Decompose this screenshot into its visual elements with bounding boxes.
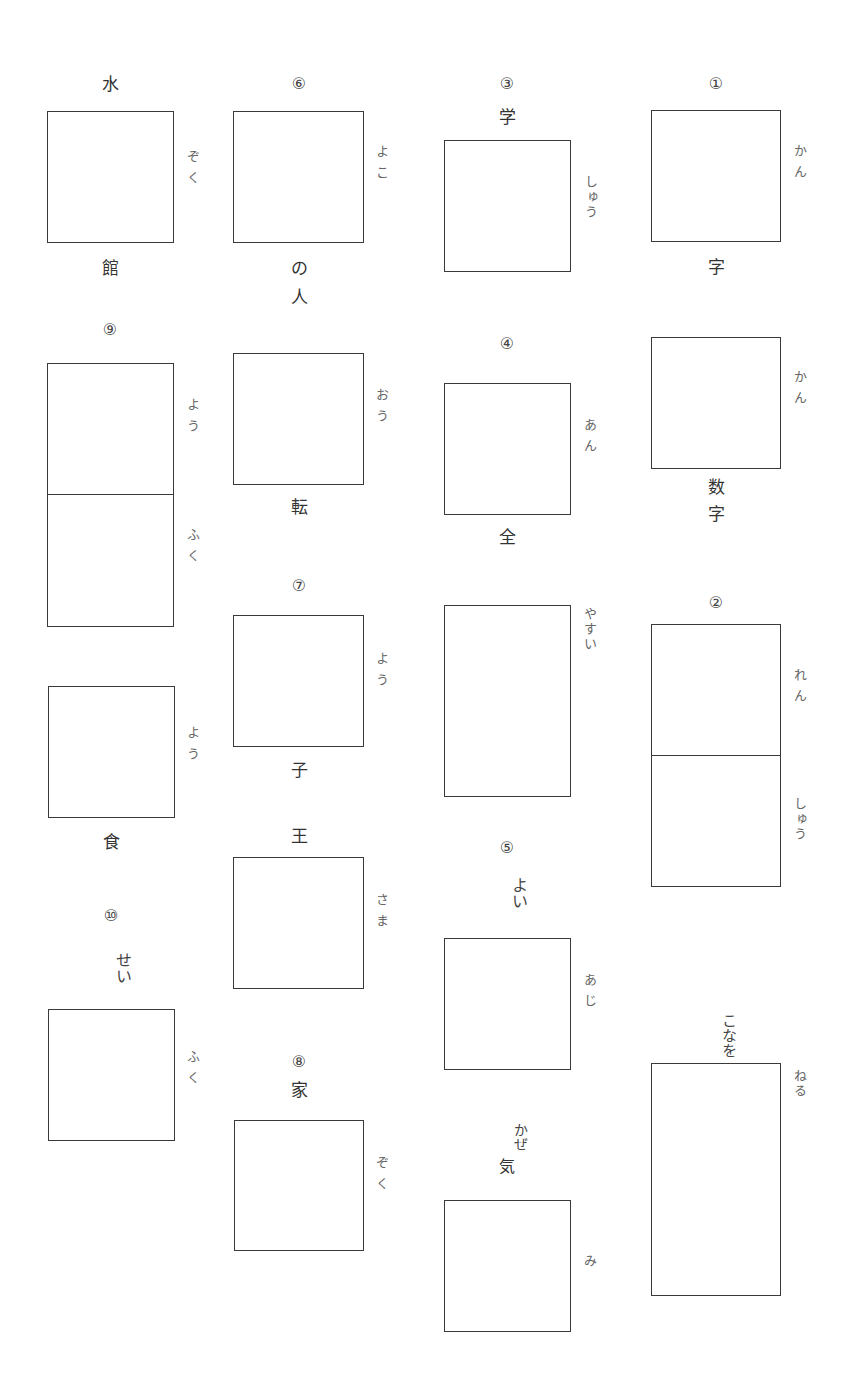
reading-aji: あじ: [583, 973, 596, 1015]
question-number-6: ⑥: [279, 76, 319, 92]
answer-box-kansuuji[interactable]: [651, 337, 781, 469]
reading-yasui: やすい: [583, 607, 596, 652]
reading-zoku-2: ぞく: [375, 1156, 388, 1198]
label-ie-kanji: 家: [279, 1082, 319, 1099]
answer-box-youfuku[interactable]: [47, 363, 174, 627]
label-shoku-kanji: 食: [91, 834, 131, 851]
label-ou-kanji: 王: [279, 828, 319, 845]
label-ji-kanji: 字: [696, 259, 736, 276]
reading-yoko: よこ: [375, 145, 388, 187]
label-water-kanji: 水: [90, 76, 130, 93]
answer-box-renshuu[interactable]: [651, 624, 781, 887]
answer-box-kazoku[interactable]: [234, 1120, 364, 1251]
answer-box-yousu[interactable]: [233, 615, 364, 747]
question-number-1: ①: [696, 76, 736, 92]
answer-box-ousama[interactable]: [233, 857, 364, 989]
reading-shuu-2: しゅう: [793, 797, 806, 842]
answer-box-suizokukan[interactable]: [47, 111, 174, 243]
reading-zoku: ぞく: [186, 150, 199, 192]
label-ko-kanji: 子: [279, 762, 319, 779]
label-zen-kanji: 全: [487, 529, 527, 546]
label-yoi: よい: [487, 872, 527, 914]
reading-ou: おう: [375, 388, 388, 430]
answer-box-yoko[interactable]: [233, 111, 364, 243]
label-suu-kanji: 数: [696, 479, 736, 496]
reading-kan: かん: [793, 144, 806, 186]
answer-box-gakushuu[interactable]: [444, 140, 571, 272]
label-ten-kanji: 転: [279, 499, 319, 516]
reading-an: あん: [583, 418, 596, 460]
reading-ren: れん: [793, 668, 806, 710]
reading-sama: さま: [375, 893, 388, 935]
reading-fuku: ふく: [186, 528, 199, 570]
label-no: の: [279, 260, 319, 277]
label-hito-kanji: 人: [279, 289, 319, 306]
reading-you-2: よう: [186, 726, 199, 768]
label-kan-kanji: 館: [90, 260, 130, 277]
reading-you: よう: [186, 398, 199, 440]
label-ji-kanji-2: 字: [696, 506, 736, 523]
question-number-3: ③: [487, 76, 527, 92]
label-sei: せい: [91, 946, 131, 990]
question-number-2: ②: [696, 595, 736, 611]
answer-box-neru[interactable]: [651, 1063, 781, 1296]
answer-box-oten[interactable]: [233, 353, 364, 485]
reading-kan-2: かん: [793, 370, 806, 412]
answer-box-aji[interactable]: [444, 938, 571, 1070]
answer-box-anzen[interactable]: [444, 383, 571, 515]
label-ki-kanji: 気: [487, 1159, 527, 1175]
label-kaze: かぜ: [487, 1120, 527, 1154]
reading-mi: み: [583, 1254, 596, 1275]
answer-box-kanji[interactable]: [651, 110, 781, 242]
question-number-4: ④: [487, 336, 527, 352]
reading-fuku-2: ふく: [186, 1050, 199, 1092]
question-number-9: ⑨: [90, 322, 130, 338]
label-gaku-kanji: 学: [487, 109, 527, 126]
box-divider: [48, 494, 173, 495]
question-number-5: ⑤: [487, 840, 527, 856]
label-kona-wo: こなを: [696, 1010, 736, 1060]
answer-box-seifuku[interactable]: [48, 1009, 175, 1141]
answer-box-samuke[interactable]: [444, 1200, 571, 1332]
question-number-10: ⑩: [91, 908, 131, 924]
answer-box-yasui[interactable]: [444, 605, 571, 797]
reading-shuu: しゅう: [584, 175, 597, 220]
reading-neru: ねる: [793, 1069, 806, 1099]
reading-you-3: よう: [375, 652, 388, 694]
question-number-7: ⑦: [279, 578, 319, 594]
box-divider: [652, 755, 780, 756]
question-number-8: ⑧: [279, 1054, 319, 1070]
answer-box-youshoku[interactable]: [48, 686, 175, 818]
